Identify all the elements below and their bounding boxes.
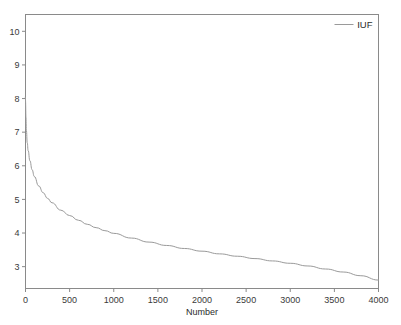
y-tick-label: 10 [9,27,19,37]
y-axis: 345678910 [9,27,25,272]
x-tick-label: 0 [23,295,28,305]
y-tick-label: 9 [14,60,19,70]
x-tick-label: 500 [62,295,77,305]
x-tick-label: 2500 [236,295,256,305]
x-axis: 05001000150020002500300035004000 [23,289,389,305]
y-tick-label: 7 [14,127,19,137]
line-chart: 0500100015002000250030003500400034567891… [0,0,401,325]
y-tick-label: 5 [14,195,19,205]
plot-frame [26,15,379,289]
x-tick-label: 1500 [148,295,168,305]
y-tick-label: 4 [14,228,19,238]
x-tick-label: 1000 [104,295,124,305]
y-tick-label: 3 [14,262,19,272]
x-axis-title: Number [186,307,218,317]
x-tick-label: 4000 [368,295,388,305]
x-tick-label: 3000 [280,295,300,305]
y-tick-label: 6 [14,161,19,171]
legend-label: IUF [357,19,373,30]
x-tick-label: 3500 [324,295,344,305]
x-tick-label: 2000 [192,295,212,305]
y-tick-label: 8 [14,94,19,104]
chart-container: 0500100015002000250030003500400034567891… [0,0,401,325]
